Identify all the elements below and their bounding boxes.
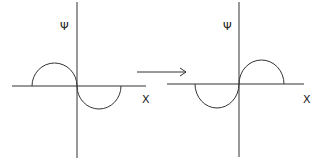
- right-plot: Ψ X: [167, 2, 311, 157]
- left-positive-lobe: [32, 63, 77, 86]
- right-positive-lobe: [239, 60, 284, 84]
- left-psi-label: Ψ: [60, 20, 69, 33]
- left-plot: Ψ X: [12, 2, 150, 158]
- right-x-label: X: [303, 93, 311, 106]
- right-negative-lobe: [195, 84, 239, 108]
- wavefunction-inversion-diagram: Ψ X Ψ X: [0, 0, 314, 164]
- left-negative-lobe: [77, 86, 121, 109]
- right-arrow-icon: [137, 68, 186, 76]
- left-x-label: X: [142, 93, 150, 106]
- right-psi-label: Ψ: [223, 20, 232, 33]
